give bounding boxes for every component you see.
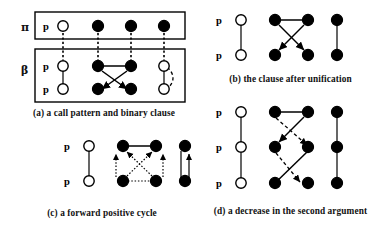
node-b-r1c1	[269, 49, 280, 60]
node-c-r1c3	[179, 175, 190, 186]
node-d-r1c3	[331, 141, 342, 152]
panel-b-diagram: p p	[210, 8, 360, 70]
node-a-r2c2	[125, 83, 136, 94]
node-c-r1c2	[150, 175, 161, 186]
predicate-label-a-r2: p	[43, 84, 49, 95]
node-b-r0c0	[236, 15, 246, 25]
node-b-r0c2	[302, 14, 313, 25]
node-b-r1c3	[331, 49, 342, 60]
node-a-r1c2	[125, 60, 136, 71]
predicate-label-c-r0: p	[64, 141, 70, 152]
node-a-r0c0	[58, 21, 68, 31]
node-d-r2c0	[236, 178, 246, 188]
node-d-r1c1	[269, 141, 280, 152]
panel-a-diagram: π β p p	[18, 8, 190, 106]
caption-panel-a: (a) a call pattern and binary clause	[0, 108, 208, 119]
node-c-r0c3	[179, 140, 190, 151]
node-a-r2c0	[58, 84, 68, 94]
node-d-r2c2	[302, 177, 313, 188]
node-b-r0c1	[269, 14, 280, 25]
node-a-r2c3	[159, 84, 169, 94]
predicate-label-a-r1: p	[43, 61, 49, 72]
node-c-r1c1	[117, 175, 128, 186]
panel-d-decrease-second-argument: p p p	[210, 100, 360, 200]
node-c-r1c0	[84, 176, 94, 186]
panel-a-call-pattern: π β p p	[18, 8, 190, 106]
figure-root: π β p p	[0, 0, 385, 235]
node-a-r0c2	[125, 20, 136, 31]
predicate-label-d-r0: p	[216, 107, 222, 118]
panel-c-diagram: p p	[58, 134, 208, 196]
node-c-r0c1	[117, 140, 128, 151]
panel-c-forward-positive-cycle: p p	[58, 134, 208, 196]
caption-panel-b: (b) the clause after unification	[196, 74, 385, 85]
predicate-label-a-r0: p	[43, 21, 49, 32]
node-a-r0c1	[92, 20, 103, 31]
node-c-r0c2	[150, 140, 161, 151]
node-b-r0c3	[331, 14, 342, 25]
node-a-r1c0	[58, 61, 68, 71]
predicate-label-b-r0: p	[216, 15, 222, 26]
group-label-beta: β	[21, 64, 28, 77]
node-d-r0c3	[331, 106, 342, 117]
node-b-r1c0	[236, 50, 246, 60]
node-c-r0c0	[84, 141, 94, 151]
node-d-r0c2	[302, 106, 313, 117]
node-d-r1c2	[302, 141, 313, 152]
panel-b-after-unification: p p	[210, 8, 360, 70]
edge-d-cross-upper-1	[279, 117, 304, 142]
node-d-r2c1	[269, 177, 280, 188]
panel-d-diagram: p p p	[210, 100, 360, 200]
node-a-r1c3	[159, 61, 169, 71]
caption-panel-d: (d) a decrease in the second argument	[196, 206, 385, 217]
predicate-label-d-r2: p	[216, 178, 222, 189]
node-a-r0c3	[158, 20, 169, 31]
group-label-pi: π	[21, 21, 29, 34]
predicate-label-d-r1: p	[216, 142, 222, 153]
node-d-r0c0	[236, 107, 246, 117]
predicate-label-b-r1: p	[216, 50, 222, 61]
edge-c-cross-2	[127, 152, 152, 176]
node-b-r1c2	[302, 49, 313, 60]
caption-panel-c: (c) a forward positive cycle	[12, 208, 192, 219]
predicate-label-c-r1: p	[64, 176, 70, 187]
node-d-r2c3	[331, 177, 342, 188]
node-a-r2c1	[92, 83, 103, 94]
node-a-r1c1	[92, 60, 103, 71]
node-d-r1c0	[236, 142, 246, 152]
node-d-r0c1	[269, 106, 280, 117]
